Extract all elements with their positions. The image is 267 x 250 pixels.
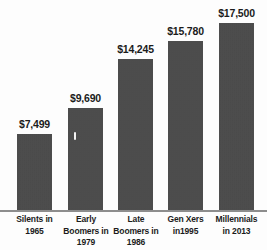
bar-value-label-3: $14,245 [117,43,154,55]
plot-area: $7,499 $9,690 $14,245 $15,780 $17,500 [0,0,267,212]
bar-value-label-1: $7,499 [19,118,50,130]
bar-group-5: $17,500 [219,0,254,212]
bar-group-1: $7,499 [17,0,52,212]
bar-1[interactable] [17,134,52,212]
bar-value-label-4: $15,780 [167,25,204,37]
bar-value-label-5: $17,500 [218,7,255,19]
bar-value-label-2: $9,690 [70,92,101,104]
bar-3[interactable] [118,59,153,212]
x-axis-category-labels: Silents in 1965 Early Boomers in 1979 La… [0,214,267,250]
bar-group-4: $15,780 [168,0,203,212]
bar-chart: $7,499 $9,690 $14,245 $15,780 $17,500 Si… [0,0,267,250]
bar-group-3: $14,245 [118,0,153,212]
bar-2[interactable] [68,108,103,212]
bar-2-artifact-mark [74,132,76,140]
category-label-5: Millennials in 2013 [206,214,267,237]
bar-5[interactable] [219,23,254,212]
x-axis-line [0,210,267,212]
bar-4[interactable] [168,41,203,212]
bar-group-2: $9,690 [68,0,103,212]
